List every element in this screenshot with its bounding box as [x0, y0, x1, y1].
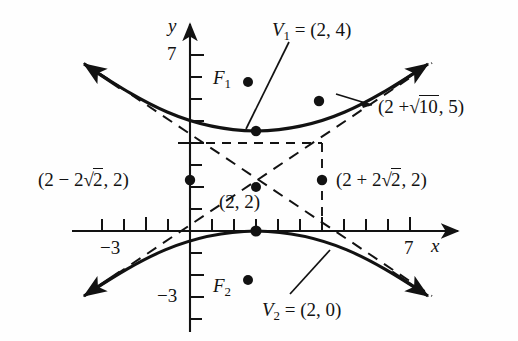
focus-callout-prefix: (2 + — [378, 96, 409, 117]
center-label: (2, 2) — [219, 192, 260, 211]
corner-right-label: (2 + 2√2, 2) — [336, 170, 427, 189]
x-axis-label: x — [431, 236, 439, 255]
focus-callout-suffix: , 5) — [439, 96, 464, 117]
focus-callout-radicand: 10 — [419, 95, 439, 117]
dot-corner-left — [185, 175, 195, 185]
x-tick-label-neg3: −3 — [100, 238, 120, 257]
dot-focus-bottom — [243, 275, 253, 285]
figure-container: y x 7 −3 −3 7 V1 = (2, 4) V2 = (2, 0) F1… — [0, 0, 518, 341]
corner-left-prefix: (2 − 2 — [38, 169, 84, 190]
dot-corner-right — [317, 175, 327, 185]
focus-bottom-subscript: 2 — [225, 284, 231, 299]
vertex-bottom-equation: = (2, 0) — [280, 299, 341, 320]
dot-vertex-bottom — [250, 225, 261, 236]
dot-focus-top — [243, 77, 253, 87]
dot-focus-callout — [314, 96, 324, 106]
upper-branch — [84, 64, 428, 131]
y-tick-label-7: 7 — [167, 44, 177, 63]
vertex-bottom-label: V2 = (2, 0) — [262, 300, 341, 323]
y-axis-label: y — [168, 16, 176, 35]
leader-line-vertex-top — [246, 42, 289, 129]
focus-top-symbol: F — [213, 67, 225, 88]
x-tick-label-7: 7 — [404, 238, 414, 257]
corner-left-radicand: 2 — [93, 168, 104, 190]
x-axis — [72, 217, 458, 231]
focus-top-subscript: 1 — [225, 76, 231, 91]
focus-top-label: F1 — [213, 68, 231, 91]
vertex-top-equation: = (2, 4) — [290, 19, 351, 40]
y-tick-label-neg3: −3 — [157, 286, 177, 305]
vertex-top-symbol: V — [272, 19, 284, 40]
corner-left-label: (2 − 2√2, 2) — [38, 170, 129, 189]
lower-branch — [84, 231, 428, 296]
focus-bottom-label: F2 — [213, 276, 231, 299]
corner-left-suffix: , 2) — [103, 169, 128, 190]
vertex-bottom-symbol: V — [262, 299, 274, 320]
vertex-top-label: V1 = (2, 4) — [272, 20, 351, 43]
leader-line-vertex-bottom — [290, 250, 330, 294]
corner-right-prefix: (2 + 2 — [336, 169, 382, 190]
focus-callout-label: (2 +√10, 5) — [378, 97, 464, 116]
corner-right-suffix: , 2) — [401, 169, 426, 190]
corner-right-radicand: 2 — [391, 168, 402, 190]
focus-bottom-symbol: F — [213, 275, 225, 296]
dot-vertex-top — [251, 126, 261, 136]
